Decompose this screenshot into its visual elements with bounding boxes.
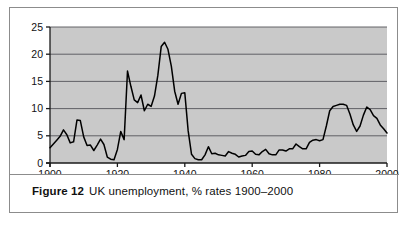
unemployment-line-chart: 0510152025 190019201940196019802000 bbox=[10, 8, 399, 174]
svg-text:25: 25 bbox=[31, 21, 43, 33]
figure-caption: Figure 12UK unemployment, % rates 1900–2… bbox=[32, 185, 293, 197]
svg-text:15: 15 bbox=[31, 75, 43, 87]
svg-text:20: 20 bbox=[31, 48, 43, 60]
figure-caption-bar: Figure 12UK unemployment, % rates 1900–2… bbox=[10, 174, 399, 212]
figure-caption-label: Figure 12 bbox=[32, 185, 84, 197]
plot-background bbox=[50, 27, 387, 163]
svg-text:5: 5 bbox=[37, 129, 43, 141]
figure-frame: 0510152025 190019201940196019802000 Figu… bbox=[9, 7, 398, 213]
svg-text:10: 10 bbox=[31, 102, 43, 114]
svg-text:0: 0 bbox=[37, 157, 43, 169]
figure-caption-text: UK unemployment, % rates 1900–2000 bbox=[89, 185, 293, 197]
y-axis-tick-labels: 0510152025 bbox=[31, 21, 43, 169]
chart-region: 0510152025 190019201940196019802000 bbox=[10, 8, 399, 174]
